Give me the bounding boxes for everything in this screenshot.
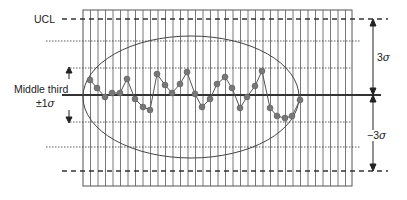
data-point — [222, 74, 228, 80]
sigma-symbol: σ — [383, 51, 390, 63]
middle-third-label: Middle third — [14, 84, 68, 95]
sigma-symbol: σ — [48, 97, 55, 109]
data-point — [259, 68, 265, 74]
data-point — [117, 90, 123, 96]
vertical-grid — [83, 10, 352, 186]
data-point — [124, 76, 130, 82]
data-point — [147, 107, 153, 113]
data-point — [154, 71, 160, 77]
lower-three-sigma-label: −3σ — [367, 130, 386, 141]
data-point — [229, 85, 235, 91]
control-limit-lines — [46, 19, 388, 171]
data-point — [87, 77, 93, 83]
data-point — [297, 97, 303, 103]
data-point — [102, 94, 108, 100]
control-chart-diagram — [0, 0, 407, 200]
middle-third-ellipse — [83, 36, 299, 158]
data-point — [177, 81, 183, 87]
data-point — [282, 115, 288, 121]
data-point — [237, 105, 243, 111]
data-point — [214, 81, 220, 87]
data-point — [207, 96, 213, 102]
data-point — [109, 90, 115, 96]
data-point — [162, 82, 168, 88]
data-point — [169, 90, 175, 96]
data-point — [267, 105, 273, 111]
plus-minus-one-sigma-label: ±1σ — [36, 98, 55, 109]
data-point — [289, 113, 295, 119]
ucl-label: UCL — [34, 14, 55, 25]
data-point — [252, 83, 258, 89]
data-point — [140, 104, 146, 110]
data-point — [184, 69, 190, 75]
lower-three-text: −3 — [367, 129, 379, 141]
plus-minus-one-text: ±1 — [36, 97, 48, 109]
data-point — [94, 85, 100, 91]
data-point — [274, 113, 280, 119]
sigma-symbol: σ — [379, 129, 386, 141]
data-point — [192, 91, 198, 97]
data-point — [244, 94, 250, 100]
data-point — [199, 104, 205, 110]
data-point — [132, 96, 138, 102]
upper-three-sigma-label: 3σ — [377, 52, 390, 63]
